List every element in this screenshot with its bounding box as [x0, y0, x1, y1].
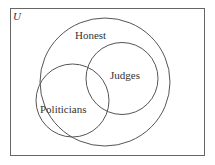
universe-label: U [13, 10, 22, 22]
judges-label: Judges [110, 69, 140, 81]
politicians-label: Politicians [40, 103, 86, 115]
venn-diagram: U Honest Judges Politicians [0, 0, 215, 165]
honest-label: Honest [75, 29, 106, 41]
politicians-circle [36, 64, 109, 137]
